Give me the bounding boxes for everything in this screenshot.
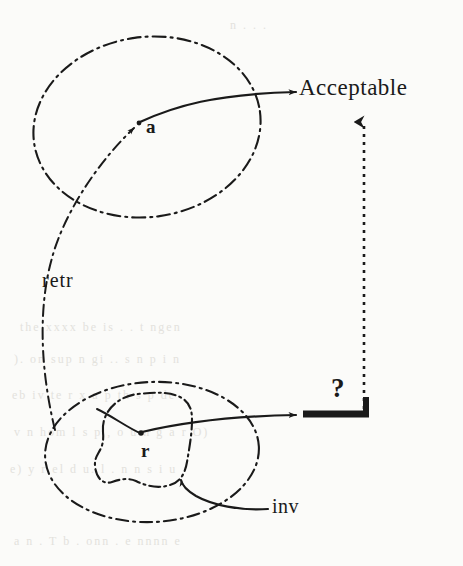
lower-operation-arrow [142,415,296,432]
label-point-a: a [146,117,156,136]
label-retr: retr [42,270,74,290]
label-point-r: r [141,441,149,460]
scanned-figure: the xxxx be is . . t ngen). on sup n gi … [0,0,463,566]
label-acceptable: Acceptable [299,76,407,99]
label-question-mark: ? [331,375,345,402]
label-inv: inv [272,496,299,516]
inv-leader-line [181,480,268,509]
acceptable-arrow [140,92,296,122]
concrete-state-space [41,376,262,527]
